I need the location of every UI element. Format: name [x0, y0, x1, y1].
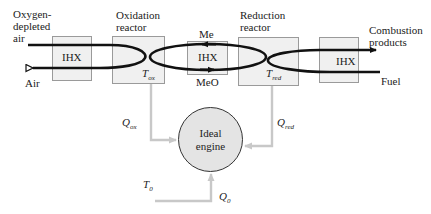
heat-line-ox [151, 84, 176, 140]
q-red-label: Qred [277, 116, 294, 131]
ihx-right-label: IHX [336, 55, 356, 67]
t-ox-label: Tox [142, 67, 155, 82]
reduction-reactor-label: Reduction reactor [240, 9, 285, 33]
fuel-label: Fuel [381, 75, 401, 87]
ihx-left-label: IHX [62, 51, 82, 63]
meo-label: MeO [196, 76, 219, 88]
q-0-label: Q0 [219, 190, 230, 205]
flow-lines [0, 0, 431, 214]
ihx-middle-label: IHX [198, 51, 218, 63]
air-loop [28, 45, 145, 68]
t-0-label: T0 [143, 178, 153, 193]
oxidation-reactor-label: Oxidation reactor [116, 9, 160, 33]
heat-line-red [245, 86, 272, 146]
combustion-products-label: Combustion products [369, 24, 423, 48]
fuel-loop [268, 50, 380, 72]
me-label: Me [199, 28, 214, 40]
t-red-label: Tred [266, 67, 281, 82]
q-ox-label: Qox [122, 116, 137, 131]
air-label: Air [25, 77, 40, 89]
heat-line-0 [155, 174, 211, 201]
oxygen-depleted-air-label: Oxygen- depleted air [13, 8, 52, 44]
